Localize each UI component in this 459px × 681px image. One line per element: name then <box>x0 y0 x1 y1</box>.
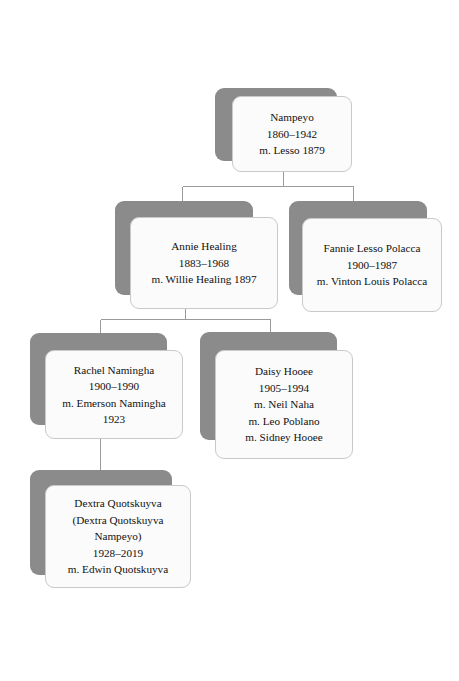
family-tree-diagram: Nampeyo 1860–1942 m. Lesso 1879 Annie He… <box>0 0 459 681</box>
node-line: 1905–1994 <box>222 380 346 397</box>
node-card-daisy-hooee[interactable]: Daisy Hooee 1905–1994 m. Neil Naha m. Le… <box>215 350 353 459</box>
node-daisy-hooee[interactable]: Daisy Hooee 1905–1994 m. Neil Naha m. Le… <box>200 332 353 459</box>
node-card-rachel-namingha[interactable]: Rachel Namingha 1900–1990 m. Emerson Nam… <box>45 350 183 439</box>
node-line: Daisy Hooee <box>222 363 346 380</box>
node-annie-healing[interactable]: Annie Healing 1883–1968 m. Willie Healin… <box>115 201 278 311</box>
node-card-fannie-lesso-polacca[interactable]: Fannie Lesso Polacca 1900–1987 m. Vinton… <box>302 218 442 312</box>
node-nampeyo[interactable]: Nampeyo 1860–1942 m. Lesso 1879 <box>215 88 352 178</box>
node-line: m. Willie Healing 1897 <box>137 271 271 288</box>
node-card-dextra-quotskuyva[interactable]: Dextra Quotskuyva (Dextra Quotskuyva Nam… <box>45 485 191 588</box>
node-line: 1900–1987 <box>309 257 435 274</box>
node-line: 1900–1990 <box>52 378 176 395</box>
node-line: m. Edwin Quotskuyva <box>52 561 184 578</box>
node-line: m. Sidney Hooee <box>222 429 346 446</box>
node-line: Rachel Namingha <box>52 362 176 379</box>
node-rachel-namingha[interactable]: Rachel Namingha 1900–1990 m. Emerson Nam… <box>30 333 183 440</box>
node-card-annie-healing[interactable]: Annie Healing 1883–1968 m. Willie Healin… <box>130 217 278 309</box>
node-line: 1923 <box>52 411 176 428</box>
node-line: m. Lesso 1879 <box>239 142 345 159</box>
node-line: m. Leo Poblano <box>222 413 346 430</box>
node-dextra-quotskuyva[interactable]: Dextra Quotskuyva (Dextra Quotskuyva Nam… <box>30 470 191 588</box>
node-line: Nampeyo) <box>52 528 184 545</box>
node-card-nampeyo[interactable]: Nampeyo 1860–1942 m. Lesso 1879 <box>232 96 352 172</box>
node-line: (Dextra Quotskuyva <box>52 512 184 529</box>
node-line: Nampeyo <box>239 109 345 126</box>
node-line: 1928–2019 <box>52 545 184 562</box>
node-line: m. Neil Naha <box>222 396 346 413</box>
node-fannie-lesso-polacca[interactable]: Fannie Lesso Polacca 1900–1987 m. Vinton… <box>289 201 442 313</box>
node-line: m. Vinton Louis Polacca <box>309 273 435 290</box>
node-line: Annie Healing <box>137 238 271 255</box>
node-line: Fannie Lesso Polacca <box>309 240 435 257</box>
node-line: Dextra Quotskuyva <box>52 495 184 512</box>
node-line: 1860–1942 <box>239 126 345 143</box>
node-line: m. Emerson Namingha <box>52 395 176 412</box>
node-line: 1883–1968 <box>137 255 271 272</box>
